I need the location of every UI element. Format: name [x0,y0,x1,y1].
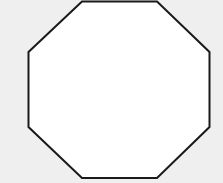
octagon-shape [29,2,210,179]
diagram-canvas [0,0,223,183]
